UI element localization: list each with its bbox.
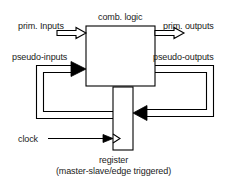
clock-label: clock — [18, 134, 38, 144]
comb-logic-block — [86, 26, 155, 86]
register-sublabel: (master-slave/edge triggered) — [0, 166, 227, 176]
circuit-diagram: comb. logic prim. Inputs prim. outputs p… — [0, 0, 227, 181]
comb-logic-label: comb. logic — [98, 12, 142, 22]
prim-inputs-label: prim. Inputs — [18, 21, 64, 31]
register-label: register — [0, 155, 227, 165]
pseudo-inputs-label: pseudo-inputs — [12, 52, 67, 62]
pseudo-outputs-label: pseudo-outputs — [153, 52, 214, 62]
prim-outputs-label: prim. outputs — [163, 21, 214, 31]
clock-input-arrow — [48, 135, 113, 143]
